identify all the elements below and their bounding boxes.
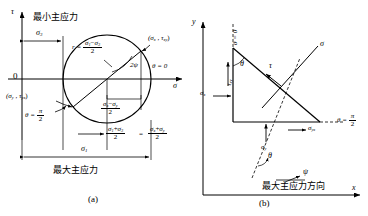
tau-arrow — [266, 74, 281, 86]
theta-half-pi-label-b: θ = π 2 — [337, 113, 356, 129]
figure-root: τ σ 0 最小主应力 最大主应力 σ3 σ1 r = σ1−σ3 2 (σx … — [0, 0, 368, 216]
sigma-difference-formula: σx−σy 2 — [101, 101, 120, 117]
leader-radius — [104, 60, 112, 67]
theta-zero-label-b: θ = 0 — [232, 30, 239, 45]
point-sigma-x-tau-xy: (σx , τxy) — [148, 35, 170, 42]
radius-formula: r = σ1−σ3 2 — [72, 40, 102, 56]
y-axis-label: y — [192, 18, 196, 26]
max-principal-stress-text: 最大主应力 — [53, 166, 98, 175]
sigma-axis-label: σ — [173, 82, 177, 90]
psi-label: ψ — [303, 168, 308, 176]
sigma-yx-label: σyx — [308, 125, 315, 132]
angle-arc-two-psi — [112, 56, 132, 72]
x-axis-label: x — [352, 184, 356, 192]
tau-axis-label: τ — [11, 8, 14, 16]
max-principal-direction-text: 最大主应力方向 — [262, 182, 325, 191]
leader-theta-half-pi — [55, 106, 66, 112]
min-principal-stress-text: 最小主应力 — [33, 13, 78, 22]
panel-a-caption: (a) — [88, 195, 98, 204]
center-formula-equals: = — [139, 131, 143, 138]
principal-direction-line — [252, 58, 300, 178]
leader-point-x — [142, 45, 150, 51]
point-sigma-y-tau-yx: (σy , τyx) — [6, 93, 28, 100]
center-formula-principal: σ1+σ3 2 — [106, 126, 125, 142]
sigma-y-label-b: σy — [261, 144, 266, 151]
two-psi-label: 2ψ — [130, 62, 138, 69]
origin-label: 0 — [13, 72, 18, 81]
tau-label-b: τ — [269, 62, 272, 70]
sigma1-label: σ1 — [81, 145, 87, 154]
theta-label-lower: θ — [268, 152, 272, 160]
theta-label-apex: θ — [240, 60, 244, 68]
panel-b-geometry — [203, 22, 360, 195]
theta-zero-label-a: θ = 0 — [152, 63, 167, 70]
triangle-hypotenuse — [233, 48, 320, 122]
sigma-x-label-b: σx — [200, 90, 205, 97]
sigma3-label: σ3 — [36, 29, 42, 38]
theta-half-pi-label-a: θ = π 2 — [25, 108, 44, 124]
center-formula-cartesian: σx+σy 2 — [148, 126, 167, 142]
sigma-ray-label: σ — [320, 40, 324, 48]
tau-xy-label: τxy — [226, 80, 233, 86]
panel-b-caption: (b) — [259, 199, 270, 208]
bracket-sigma-diff — [107, 95, 141, 99]
